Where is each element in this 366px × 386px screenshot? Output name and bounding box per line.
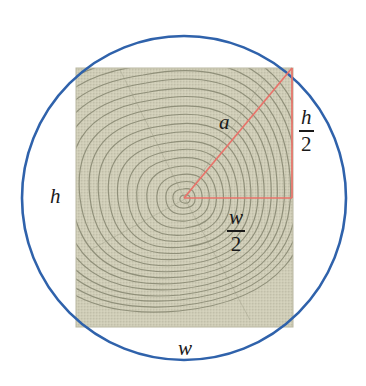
label-half-width: w 2 [227,206,245,256]
label-hypotenuse-a: a [219,112,230,133]
geometry-figure: a h w h 2 w 2 [0,0,366,386]
label-height-h: h [50,186,61,207]
triangle-hypotenuse-a [184,68,292,198]
label-width-w: w [178,338,192,359]
half-height-denominator: 2 [299,133,314,156]
half-width-numerator: w [227,206,245,228]
half-height-numerator: h [299,106,314,128]
label-half-height: h 2 [299,106,314,156]
half-width-denominator: 2 [227,233,245,256]
